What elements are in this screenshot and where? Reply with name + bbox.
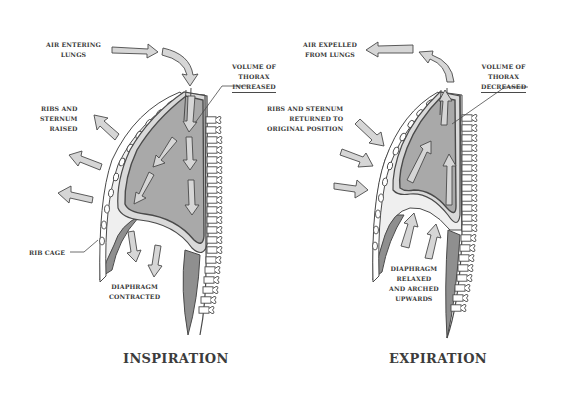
label-ribs-sternum-returned: RIBS AND STERNUM RETURNED TO ORIGINAL PO… <box>267 104 343 134</box>
label-volume-thorax-decreased: VOLUME OF THORAX DECREASED <box>481 62 526 93</box>
label-air-expelled: AIR EXPELLED FROM LUNGS <box>303 40 357 60</box>
label-volume-thorax-increased: VOLUME OF THORAX INCREASED <box>232 62 276 93</box>
label-ribs-sternum-raised: RIBS AND STERNUM RAISED <box>40 104 78 134</box>
posterior-wedge <box>183 250 200 335</box>
label-diaphragm-relaxed: DIAPHRAGM RELAXED AND ARCHED UPWARDS <box>389 264 439 304</box>
label-diaphragm-contracted: DIAPHRAGM CONTRACTED <box>109 282 160 302</box>
label-air-entering-lungs: AIR ENTERING LUNGS <box>46 40 101 60</box>
title-inspiration: INSPIRATION <box>123 351 229 366</box>
label-rib-cage: RIB CAGE <box>29 248 65 258</box>
title-expiration: EXPIRATION <box>389 351 487 366</box>
